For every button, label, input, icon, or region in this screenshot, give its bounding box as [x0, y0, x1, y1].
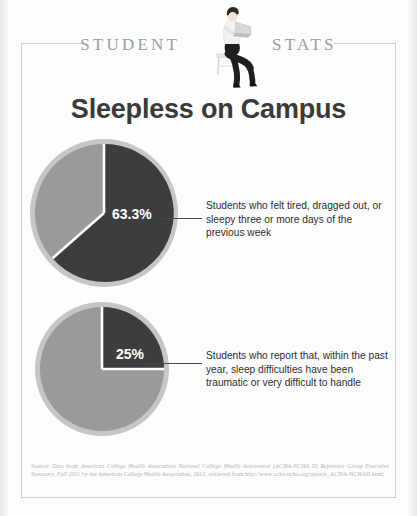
infographic-page: STUDENT STATS Sleepless on Campus — [0, 0, 417, 516]
pie-tired-svg — [28, 137, 180, 289]
source-prefix: Source: Data from — [31, 463, 81, 469]
caption-traumatic: Students who report that, within the pas… — [206, 349, 392, 390]
header-word-student: STUDENT — [80, 36, 180, 53]
header-word-stats: STATS — [272, 36, 337, 53]
source-remainder: by the American College Health Associati… — [80, 471, 384, 477]
chart-block-tired: 63.3% Students who felt tired, dragged o… — [28, 137, 398, 289]
leader-line-traumatic — [146, 363, 202, 364]
pie-traumatic-svg — [33, 300, 171, 438]
pie-chart-tired — [28, 137, 180, 289]
paper-edge-right — [407, 0, 417, 516]
page-title: Sleepless on Campus — [0, 94, 417, 125]
source-note: Source: Data from American College Healt… — [31, 462, 389, 479]
leader-line-tired — [164, 218, 202, 219]
pie-percent-label-tired: 63.3% — [112, 206, 152, 222]
pie-percent-label-traumatic: 25% — [116, 346, 144, 362]
pie-chart-traumatic — [33, 300, 171, 438]
caption-tired: Students who felt tired, dragged out, or… — [206, 199, 392, 240]
paper-edge-left — [0, 0, 10, 516]
chart-block-traumatic: 25% Students who report that, within the… — [28, 300, 398, 438]
seated-student-with-laptop-icon — [205, 3, 267, 91]
